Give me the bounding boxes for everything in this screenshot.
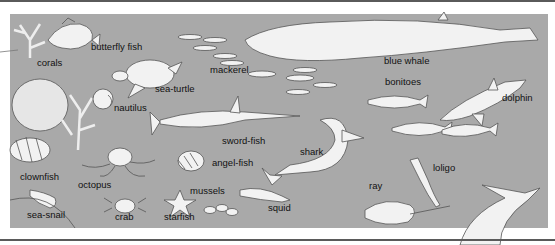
label-dolphin: dolphin xyxy=(502,93,533,103)
leader-line xyxy=(0,50,18,52)
humpback-whale-icon xyxy=(460,185,540,245)
label-squid: squid xyxy=(268,203,291,213)
label-nautilus: nautilus xyxy=(114,103,147,113)
nautilus-icon xyxy=(93,89,113,109)
label-bonitoes: bonitoes xyxy=(385,77,421,87)
bottom-rule xyxy=(0,239,555,241)
label-octopus: octopus xyxy=(78,180,111,190)
label-angel-fish: angel-fish xyxy=(212,158,253,168)
brain-coral-icon xyxy=(12,79,68,131)
blue-whale-icon xyxy=(245,12,538,61)
clownfish-icon xyxy=(10,137,50,162)
angel-fish-icon xyxy=(178,151,204,171)
label-starfish: starfish xyxy=(164,212,195,222)
label-sea-snail: sea-snail xyxy=(27,210,65,220)
label-mackerel: mackerel xyxy=(210,65,249,75)
sword-fish-icon xyxy=(150,96,300,135)
label-ray: ray xyxy=(369,181,382,191)
label-butterfly-fish: butterfly fish xyxy=(91,42,142,52)
label-blue-whale: blue whale xyxy=(384,56,429,66)
label-crab: crab xyxy=(115,212,133,222)
label-sword-fish: sword-fish xyxy=(222,136,265,146)
label-shark: shark xyxy=(300,147,323,157)
mussels-icon xyxy=(204,205,238,216)
coral-branch-icon xyxy=(14,24,45,58)
label-clownfish: clownfish xyxy=(20,172,59,182)
octopus-icon xyxy=(82,148,155,176)
label-sea-turtle: sea-turtle xyxy=(155,84,195,94)
label-loligo: loligo xyxy=(433,163,455,173)
squid-icon xyxy=(240,188,290,202)
label-mussels: mussels xyxy=(190,186,225,196)
label-corals: corals xyxy=(37,58,62,68)
